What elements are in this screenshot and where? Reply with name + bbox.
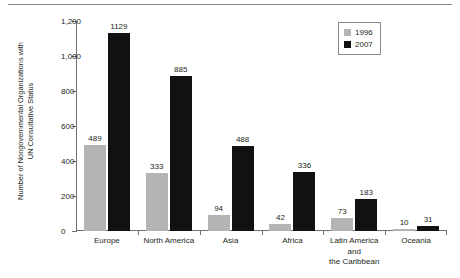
y-tick-label: 1,200 (61, 17, 65, 26)
bar-group: 42336 (269, 21, 315, 231)
legend: 1996 2007 (338, 22, 381, 55)
top-divider (8, 4, 452, 5)
category-label: Africa (262, 236, 324, 247)
bar-group: 333885 (146, 21, 192, 231)
x-tick (385, 230, 386, 235)
bar-value-label: 10 (400, 218, 409, 227)
bar-1996: 489 (84, 145, 106, 231)
chart-figure: Number of Nongovernmental Organizations … (0, 0, 460, 278)
category-label: Europe (76, 236, 138, 247)
bar-value-label: 336 (298, 161, 311, 170)
bar-value-label: 333 (150, 162, 163, 171)
legend-label-1996: 1996 (355, 28, 373, 37)
bar-value-label: 1129 (110, 22, 127, 31)
bar-value-label: 488 (236, 135, 249, 144)
x-axis-end-tick (446, 230, 447, 235)
bar-value-label: 42 (276, 213, 285, 222)
bar-2007: 488 (232, 146, 254, 231)
legend-item-2007: 2007 (344, 38, 373, 50)
bar-value-label: 94 (214, 204, 223, 213)
y-axis-label: Number of Nongovernmental Organizations … (11, 13, 41, 229)
x-tick (323, 230, 324, 235)
y-tick-label: 600 (61, 122, 65, 131)
bar-1996: 10 (393, 229, 415, 231)
legend-swatch-1996 (344, 29, 351, 36)
plot-area: 02004006008001,0001,200 4891129333885944… (76, 21, 447, 231)
bar-2007: 183 (355, 199, 377, 231)
bar-value-label: 73 (338, 207, 347, 216)
bar-2007: 336 (293, 172, 315, 231)
bar-value-label: 885 (174, 65, 187, 74)
y-tick-label: 400 (61, 157, 65, 166)
y-axis-label-text: Number of Nongovernmental Organizations … (16, 42, 35, 200)
bar-value-label: 183 (360, 188, 373, 197)
y-tick (72, 231, 77, 232)
bar-group: 4891129 (84, 21, 130, 231)
y-tick-label: 1,000 (61, 52, 65, 61)
category-label: Oceania (385, 236, 447, 247)
bar-1996: 73 (331, 218, 353, 231)
legend-item-1996: 1996 (344, 26, 373, 38)
category-label: North America (138, 236, 200, 247)
y-tick-label: 200 (61, 192, 65, 201)
bar-2007: 1129 (108, 33, 130, 231)
category-label: Latin America and the Caribbean (323, 236, 385, 268)
bar-value-label: 31 (424, 215, 433, 224)
y-tick-label: 0 (61, 227, 65, 236)
bar-group: 1031 (393, 21, 439, 231)
x-tick (262, 230, 263, 235)
bar-2007: 31 (417, 226, 439, 231)
bar-1996: 333 (146, 173, 168, 231)
bar-value-label: 489 (88, 134, 101, 143)
bar-1996: 42 (269, 224, 291, 231)
x-tick (200, 230, 201, 235)
bar-group: 94488 (208, 21, 254, 231)
legend-label-2007: 2007 (355, 40, 373, 49)
x-tick (138, 230, 139, 235)
legend-swatch-2007 (344, 41, 351, 48)
bar-2007: 885 (170, 76, 192, 231)
y-tick-label: 800 (61, 87, 65, 96)
bar-1996: 94 (208, 215, 230, 231)
category-label: Asia (200, 236, 262, 247)
